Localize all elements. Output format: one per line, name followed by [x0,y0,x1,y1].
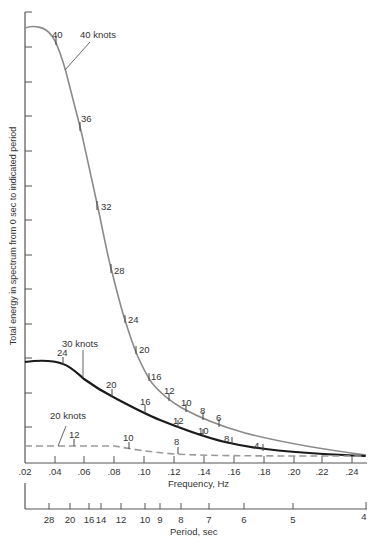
period-marker-label: 24 [128,314,139,325]
x-tick-label: .10 [137,466,150,477]
series-label-30-knots: 30 knots [62,338,98,349]
x-axis-label: Frequency, Hz [168,478,229,489]
period-tick-label: 6 [241,514,246,525]
period-marker-label: 8 [200,405,205,416]
x-tick-label: .24 [345,466,358,477]
x-tick-label: .04 [48,466,61,477]
series-40-knots: 40 36 32 28 24 20 16 12 10 8 6 40 knots [25,27,366,455]
period-marker-label: 12 [164,385,175,396]
x-tick-label: .18 [257,466,270,477]
x-tick-label: .12 [167,466,180,477]
period-axis: 28 20 16 14 12 10 9 8 7 6 5 4 Period, se… [25,483,367,537]
period-marker-label: 10 [123,432,134,443]
period-tick-label: 5 [290,514,295,525]
period-marker-label: 32 [101,201,112,212]
x-tick-label: .14 [197,466,210,477]
period-tick-label: 8 [178,514,183,525]
series-label-40-knots: 40 knots [80,29,116,40]
x-tick-label: .20 [287,466,300,477]
x-tick-label: .16 [227,466,240,477]
x-tick-label: .08 [107,466,120,477]
period-marker-label: 8 [224,433,229,444]
wave-energy-chart: Total energy in spectrum from 0 sec to i… [0,0,380,544]
frequency-axis: .02 .04 .06 .08 .10 .12 .14 .16 .18 .20 … [18,456,367,489]
x-tick-label: .02 [18,466,31,477]
period-marker-label: 36 [81,113,92,124]
period-tick-label: 7 [206,514,211,525]
period-tick-label: 4 [361,511,366,522]
period-marker-label: 20 [106,379,117,390]
period-marker-label: 4 [254,440,259,451]
x-tick-label: .06 [77,466,90,477]
period-axis-label: Period, sec [170,526,218,537]
period-tick-label: 10 [140,514,151,525]
y-axis-label: Total energy in spectrum from 0 sec to i… [8,127,18,346]
period-marker-label: 10 [198,425,209,436]
period-tick-label: 16 [84,514,95,525]
period-marker-label: 16 [151,371,162,382]
period-marker-label: 28 [114,265,125,276]
period-tick-label: 9 [157,514,162,525]
period-tick-label: 28 [44,514,55,525]
period-tick-label: 12 [116,514,127,525]
period-marker-label: 40 [52,29,63,40]
period-marker-label: 20 [139,344,150,355]
y-axis: Total energy in spectrum from 0 sec to i… [8,12,32,463]
x-tick-label: .22 [315,466,328,477]
period-tick-label: 20 [65,514,76,525]
period-marker-label: 8 [174,436,179,447]
series-label-20-knots: 20 knots [50,410,86,421]
period-tick-label: 14 [96,514,107,525]
period-marker-label: 10 [181,397,192,408]
period-marker-label: 12 [173,415,184,426]
period-marker-label: 16 [140,396,151,407]
period-marker-label: 12 [69,429,80,440]
period-marker-label: 6 [216,412,221,423]
